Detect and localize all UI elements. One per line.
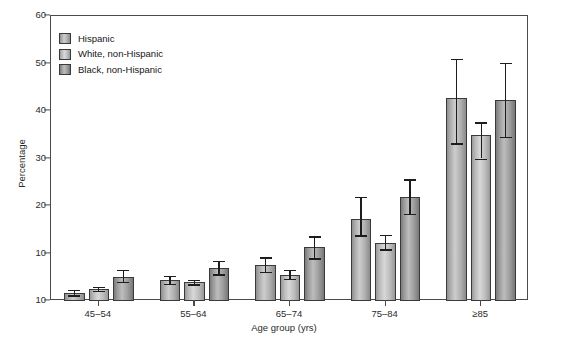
- x-axis-tick-mark: [289, 300, 290, 306]
- legend-item-label: White, non-Hispanic: [78, 49, 163, 59]
- error-bar-cap-upper: [309, 236, 321, 237]
- error-bar-cap-lower: [93, 291, 105, 292]
- error-bar-cap-lower: [188, 284, 200, 285]
- x-axis-tick-label: 55–64: [180, 309, 206, 319]
- y-axis-tick-label: 10: [0, 248, 46, 258]
- error-bar-stem: [456, 59, 457, 144]
- error-bar-cap-upper: [213, 261, 225, 262]
- y-axis-tick-label: 20: [0, 200, 46, 210]
- error-bar-cap-lower: [260, 272, 272, 273]
- y-axis-title: Percentage: [16, 119, 27, 209]
- error-bar-stem: [385, 235, 386, 250]
- error-bar-cap-lower: [451, 143, 463, 144]
- error-bar-stem: [409, 179, 410, 213]
- legend-item: Black, non-Hispanic: [59, 62, 163, 78]
- error-bar-cap-upper: [500, 63, 512, 64]
- error-bar-stem: [265, 257, 266, 271]
- error-bar-cap-upper: [451, 59, 463, 60]
- error-bar-cap-lower: [380, 249, 392, 250]
- chart-legend: HispanicWhite, non-HispanicBlack, non-Hi…: [59, 31, 163, 78]
- error-bar-stem: [314, 236, 315, 258]
- legend-swatch-icon: [59, 64, 71, 75]
- legend-item: White, non-Hispanic: [59, 47, 163, 63]
- error-bar-cap-upper: [355, 197, 367, 198]
- error-bar-cap-lower: [68, 295, 80, 296]
- x-axis-tick-mark: [480, 300, 481, 306]
- x-axis-tick-mark: [98, 300, 99, 306]
- error-bar-stem: [289, 270, 290, 280]
- error-bar-stem: [360, 197, 361, 236]
- error-bar-cap-lower: [404, 214, 416, 215]
- error-bar-cap-upper: [68, 290, 80, 291]
- legend-item-label: Hispanic: [78, 34, 114, 44]
- legend-item-label: Black, non-Hispanic: [78, 65, 162, 75]
- error-bar-cap-upper: [164, 276, 176, 277]
- x-axis-tick-label: 75–84: [371, 309, 397, 319]
- error-bar-cap-lower: [500, 137, 512, 138]
- error-bar-cap-lower: [213, 274, 225, 275]
- error-bar-cap-upper: [260, 257, 272, 258]
- legend-swatch-icon: [59, 33, 71, 44]
- error-bar-cap-upper: [188, 280, 200, 281]
- percentage-by-age-group-bar-chart: Percentage 10102030405060 45–5455–6465–7…: [0, 0, 568, 337]
- x-axis-tick-mark: [385, 300, 386, 306]
- error-bar-cap-lower: [117, 282, 129, 283]
- y-axis-tick-label: 60: [0, 10, 46, 20]
- x-axis-title: Age group (yrs): [0, 322, 568, 333]
- error-bar-cap-lower: [309, 258, 321, 259]
- legend-swatch-icon: [59, 49, 71, 60]
- error-bar-cap-lower: [475, 159, 487, 160]
- legend-item: Hispanic: [59, 31, 163, 47]
- y-axis-tick-label: 30: [0, 153, 46, 163]
- y-axis-tick-label: 10: [0, 295, 46, 305]
- x-axis-tick-mark: [193, 300, 194, 306]
- error-bar-stem: [481, 122, 482, 158]
- error-bar-stem: [123, 270, 124, 282]
- error-bar-cap-upper: [404, 179, 416, 180]
- x-axis-tick-label: ≥85: [472, 309, 488, 319]
- error-bar-cap-lower: [284, 279, 296, 280]
- error-bar-stem: [218, 261, 219, 275]
- error-bar-cap-upper: [117, 270, 129, 271]
- error-bar-cap-lower: [355, 235, 367, 236]
- error-bar-cap-upper: [284, 270, 296, 271]
- error-bar-cap-upper: [380, 235, 392, 236]
- y-axis-tick-label: 40: [0, 105, 46, 115]
- y-axis-tick-label: 50: [0, 58, 46, 68]
- error-bar-cap-lower: [164, 284, 176, 285]
- bar-white-non-hispanic-3: [375, 243, 396, 301]
- error-bar-stem: [505, 63, 506, 138]
- x-axis-tick-label: 45–54: [85, 309, 111, 319]
- x-axis-tick-label: 65–74: [276, 309, 302, 319]
- error-bar-cap-upper: [475, 122, 487, 123]
- error-bar-cap-upper: [93, 287, 105, 288]
